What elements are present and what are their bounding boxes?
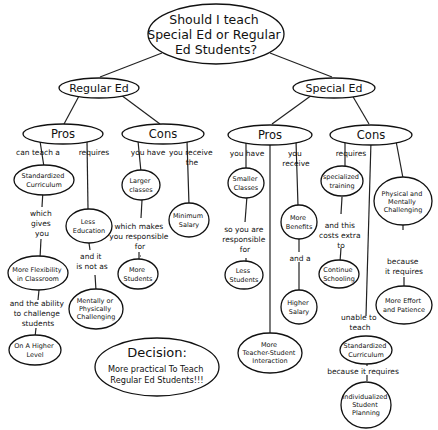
link-label: can teach a requires — [16, 148, 109, 157]
svg-text:so you are responsible: so you are responsible for — [222, 225, 267, 254]
svg-text:and it is not as: and it is not as — [76, 252, 108, 271]
svg-text:Continue Schooling: Continue Schooling — [323, 266, 355, 283]
regular-ed-node: Regular Ed — [59, 78, 139, 98]
individualized-student-planning-node: Individualized Student Planning — [341, 382, 391, 428]
svg-text:More practical To Teach: More practical To Teach Regular Ed Stude… — [108, 364, 206, 385]
mentally-physically-challenging-node: Mentally or Physically Challenging — [69, 289, 123, 329]
link-label: which gives you — [30, 209, 54, 238]
svg-text:you have: you have — [131, 148, 166, 157]
link-label: and it is not as — [76, 252, 108, 271]
continue-schooling-node: Continue Schooling — [319, 260, 359, 288]
svg-text:unable to teach: unable to teach — [341, 313, 379, 332]
physical-mentally-challenging-node: Physical and Mentally Challenging — [374, 177, 432, 225]
svg-text:Cons: Cons — [149, 127, 177, 141]
svg-text:More Effort and Patience: More Effort and Patience — [383, 297, 425, 314]
svg-text:requires: requires — [336, 149, 367, 158]
link-label: and the ability to challenge students — [10, 299, 67, 328]
minimum-salary-node: Minimum Salary — [169, 203, 209, 237]
svg-text:and this costs extra: and this costs extra to — [319, 221, 363, 250]
larger-classes-node: Larger classes — [122, 170, 160, 200]
regular-cons-node: Cons — [122, 124, 204, 144]
svg-text:requires: requires — [79, 148, 110, 157]
svg-text:which gives you: which gives you — [30, 209, 54, 238]
link-label: so you are responsible for — [222, 225, 267, 254]
link-label: because it requires — [327, 367, 399, 376]
svg-text:Pros: Pros — [258, 128, 282, 142]
link-label: because it requires — [385, 257, 423, 276]
concept-map: Should I teach Special Ed or Regular Ed … — [0, 0, 438, 430]
link-label: and this costs extra to — [319, 221, 363, 250]
svg-text:More Flexibility in Clas: More Flexibility in Classroom — [12, 266, 63, 283]
more-effort-patience-node: More Effort and Patience — [376, 286, 432, 324]
higher-salary-node: Higher Salary — [281, 290, 317, 324]
svg-text:and the ability to chall: and the ability to challenge students — [10, 299, 67, 328]
link-label: and a — [289, 254, 310, 263]
on-a-higher-level-node: On A Higher Level — [9, 335, 61, 365]
link-label: requires — [336, 149, 367, 158]
special-pros-node: Pros — [228, 125, 312, 145]
svg-text:you receive the: you receive the — [169, 148, 215, 167]
svg-text:Higher Salary: Higher Salary — [287, 299, 311, 316]
more-flexibility-node: More Flexibility in Classroom — [8, 256, 68, 290]
standardized-curriculum-node: Standardized Curriculum — [14, 165, 74, 195]
svg-text:Standardized Curriculum: Standardized Curriculum — [22, 172, 67, 189]
svg-text:Standardized Curriculum: Standardized Curriculum — [344, 342, 389, 359]
special-ed-node: Special Ed — [293, 78, 375, 98]
svg-text:and a: and a — [289, 254, 310, 263]
regular-pros-node: Pros — [23, 124, 103, 144]
decision-heading: Decision: — [127, 345, 187, 360]
svg-text:you have: you have — [230, 149, 265, 158]
standardized-curriculum-special-node: Standardized Curriculum — [340, 336, 392, 364]
more-teacher-student-interaction-node: More Teacher-Student Interaction — [238, 333, 302, 373]
svg-text:Cons: Cons — [357, 128, 385, 142]
more-benefits-node: More Benefits — [281, 205, 317, 239]
svg-text:you receive: you receive — [282, 149, 310, 168]
svg-text:Larger classes: Larger classes — [129, 177, 153, 194]
svg-text:Mentally or Physically: Mentally or Physically Challenging — [77, 297, 116, 321]
smaller-classes-node: Smaller Classes — [228, 168, 264, 198]
link-label: which makes you responsible for — [109, 222, 171, 251]
link-label: unable to teach — [341, 313, 379, 332]
svg-text:can teach a: can teach a — [16, 148, 60, 157]
less-students-node: Less Students — [225, 261, 263, 289]
decision-node: Decision: More practical To Teach Regula… — [95, 338, 219, 396]
svg-text:because it requires: because it requires — [385, 257, 423, 276]
less-education-node: Less Education — [66, 209, 112, 243]
svg-text:Pros: Pros — [51, 127, 75, 141]
svg-text:because it requires: because it requires — [327, 367, 399, 376]
svg-text:Special Ed: Special Ed — [305, 82, 362, 95]
svg-text:which makes you responsi: which makes you responsible for — [109, 222, 171, 251]
svg-text:Regular Ed: Regular Ed — [69, 82, 129, 95]
specialized-training-node: specialized training — [321, 166, 363, 196]
link-label: you have you receive the — [131, 148, 215, 167]
special-cons-node: Cons — [330, 125, 412, 145]
more-students-node: More Students — [118, 259, 158, 289]
root-question-node: Should I teach Special Ed or Regular Ed … — [147, 4, 285, 64]
svg-text:Smaller Classes: Smaller Classes — [233, 175, 260, 192]
